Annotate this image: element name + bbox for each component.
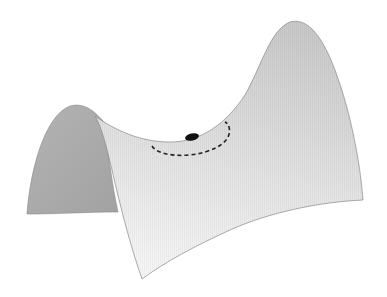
saddle-back-face — [27, 105, 118, 214]
saddle-diagram — [0, 0, 387, 297]
surface-texture — [95, 21, 363, 279]
